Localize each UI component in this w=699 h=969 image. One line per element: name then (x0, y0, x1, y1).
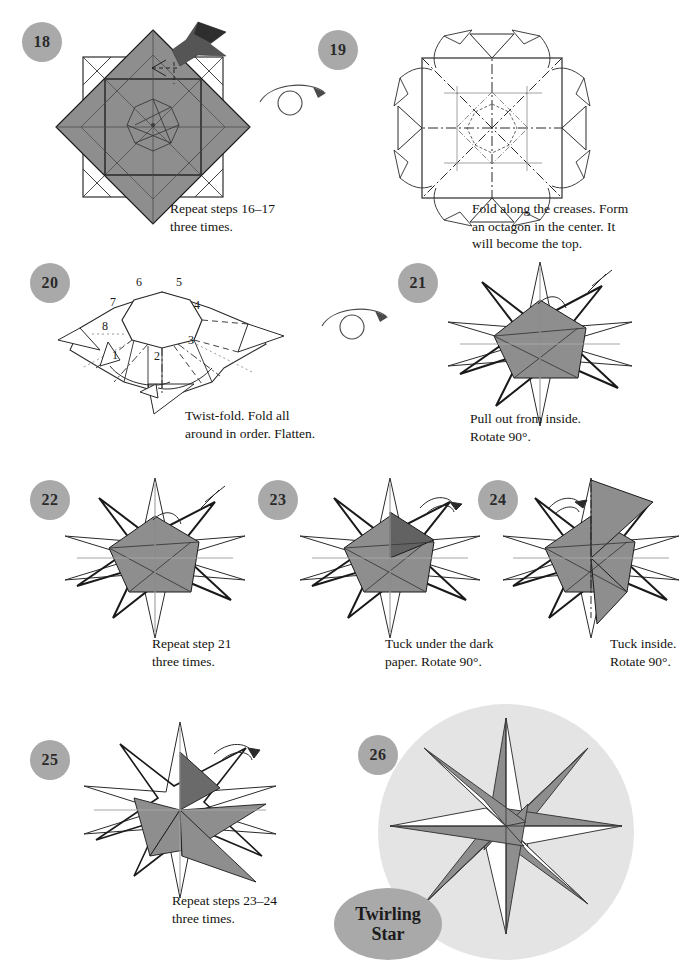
diagram-step-25 (60, 718, 300, 903)
flap-label-1: 1 (112, 348, 118, 362)
diagram-step-21 (420, 262, 660, 432)
diagram-step-23 (280, 478, 500, 643)
turn-over-icon-18-to-19 (256, 76, 332, 124)
flap-label-3: 3 (188, 333, 194, 347)
origami-instruction-page: 18 (0, 0, 699, 969)
model-name-badge: Twirling Star (334, 888, 442, 960)
flap-label-6: 6 (136, 275, 142, 289)
flap-label-5: 5 (176, 275, 182, 289)
model-name-line2: Star (372, 924, 405, 944)
flap-label-8: 8 (102, 319, 108, 333)
caption-step-19: Fold along the creases. Form an octagon … (472, 200, 687, 253)
tuck-arrow-icon (420, 498, 462, 514)
flap-label-4: 4 (194, 298, 200, 312)
turn-over-icon-20-to-21 (318, 300, 394, 348)
diagram-step-24 (483, 478, 699, 643)
caption-step-21: Pull out from inside. Rotate 90°. (470, 410, 670, 445)
tuck-arrow-icon (549, 498, 587, 514)
caption-step-25: Repeat steps 23–24 three times. (172, 892, 332, 927)
step-badge-19: 19 (318, 30, 358, 70)
diagram-step-18 (48, 22, 278, 217)
model-name-line1: Twirling (355, 904, 421, 924)
flap-label-2: 2 (154, 349, 160, 363)
diagram-step-22 (45, 478, 265, 643)
diagram-step-20: 1 2 3 4 5 6 7 8 (52, 272, 292, 417)
caption-step-24: Tuck inside. Rotate 90°. (610, 635, 699, 670)
caption-step-22: Repeat step 21 three times. (152, 635, 292, 670)
caption-step-20: Twist-fold. Fold all around in order. Fl… (185, 407, 375, 442)
caption-step-18: Repeat steps 16–17 three times. (170, 200, 320, 235)
tuck-arrow-icon (214, 744, 260, 760)
diagram-step-19 (382, 26, 602, 211)
pull-out-arrow-icon (538, 270, 612, 308)
flap-label-7: 7 (110, 295, 116, 309)
